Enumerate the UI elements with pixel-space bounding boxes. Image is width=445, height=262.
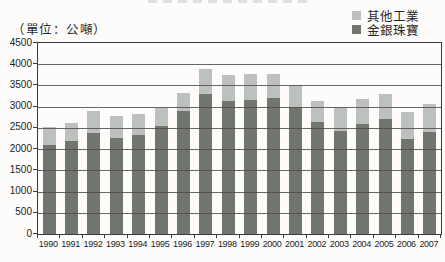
bar-1992-other-industry xyxy=(87,111,100,133)
x-axis-label-1994: 1994 xyxy=(126,239,150,249)
y-axis-tick-0 xyxy=(33,233,37,234)
y-axis-tick-1500 xyxy=(33,169,37,170)
x-axis-tick-0 xyxy=(37,235,38,238)
bar-1996-other-industry xyxy=(177,93,190,111)
y-axis-label-1000: 1000 xyxy=(1,185,32,196)
y-axis-tick-4000 xyxy=(33,63,37,64)
x-axis-tick-6 xyxy=(171,235,172,238)
bar-2006-jewelry xyxy=(401,139,414,235)
x-axis-tick-7 xyxy=(194,235,195,238)
x-axis-tick-18 xyxy=(440,235,441,238)
gridline-2000 xyxy=(38,149,441,150)
bar-1997-other-industry xyxy=(199,69,212,93)
x-axis-label-1993: 1993 xyxy=(103,239,127,249)
bar-1999-jewelry xyxy=(244,100,257,234)
bar-1995-jewelry xyxy=(155,126,168,234)
x-axis-label-2001: 2001 xyxy=(282,239,306,249)
x-axis-label-1996: 1996 xyxy=(171,239,195,249)
x-axis-label-2007: 2007 xyxy=(417,239,441,249)
bar-1990-jewelry xyxy=(43,145,56,234)
gridline-3000 xyxy=(38,107,441,108)
y-axis-tick-2500 xyxy=(33,127,37,128)
y-axis-label-0: 0 xyxy=(1,228,32,239)
bar-1993-jewelry xyxy=(110,138,123,234)
legend: 其他工業 金銀珠寶 xyxy=(352,8,419,36)
x-axis-tick-13 xyxy=(328,235,329,238)
plot-area xyxy=(37,42,442,235)
x-axis-label-2004: 2004 xyxy=(350,239,374,249)
x-axis-label-1990: 1990 xyxy=(36,239,60,249)
bar-1998-other-industry xyxy=(222,75,235,101)
bar-2001-other-industry xyxy=(289,85,302,106)
legend-swatch-other-industry xyxy=(352,11,361,20)
y-axis-label-3000: 3000 xyxy=(1,100,32,111)
bar-1996-jewelry xyxy=(177,111,190,234)
x-axis-tick-5 xyxy=(149,235,150,238)
bar-1991-jewelry xyxy=(65,141,78,234)
x-axis-tick-10 xyxy=(261,235,262,238)
y-axis-tick-2000 xyxy=(33,148,37,149)
y-axis-tick-500 xyxy=(33,212,37,213)
y-axis-label-4500: 4500 xyxy=(1,37,32,48)
bar-2002-jewelry xyxy=(311,122,324,234)
x-axis-tick-15 xyxy=(373,235,374,238)
y-axis-label-3500: 3500 xyxy=(1,79,32,90)
bar-2007-jewelry xyxy=(423,132,436,234)
x-axis-tick-1 xyxy=(59,235,60,238)
bar-1998-jewelry xyxy=(222,101,235,234)
y-axis-label-500: 500 xyxy=(1,206,32,217)
y-axis-label-2500: 2500 xyxy=(1,121,32,132)
x-axis-tick-16 xyxy=(395,235,396,238)
bar-2002-other-industry xyxy=(311,101,324,122)
x-axis-tick-8 xyxy=(216,235,217,238)
gridline-1500 xyxy=(38,170,441,171)
y-axis-label-2000: 2000 xyxy=(1,143,32,154)
x-axis-tick-4 xyxy=(127,235,128,238)
bar-1991-other-industry xyxy=(65,123,78,141)
y-axis-tick-1000 xyxy=(33,191,37,192)
legend-swatch-jewelry xyxy=(352,25,361,34)
bar-1999-other-industry xyxy=(244,74,257,101)
bar-2003-jewelry xyxy=(334,131,347,234)
y-axis-label-4000: 4000 xyxy=(1,58,32,69)
bar-1995-other-industry xyxy=(155,108,168,126)
legend-label-jewelry: 金銀珠寶 xyxy=(367,20,419,39)
gridline-500 xyxy=(38,213,441,214)
bar-1994-other-industry xyxy=(132,114,145,135)
x-axis-label-2006: 2006 xyxy=(394,239,418,249)
bar-2004-other-industry xyxy=(356,99,369,124)
legend-item-jewelry: 金銀珠寶 xyxy=(352,22,419,36)
gridline-1000 xyxy=(38,192,441,193)
x-axis-tick-11 xyxy=(283,235,284,238)
bar-2006-other-industry xyxy=(401,112,414,139)
x-axis-label-1991: 1991 xyxy=(59,239,83,249)
x-axis-label-2003: 2003 xyxy=(327,239,351,249)
x-axis-tick-17 xyxy=(418,235,419,238)
x-axis-tick-12 xyxy=(306,235,307,238)
unit-label: （單位：公噸） xyxy=(12,19,107,38)
cropped-title-remnant xyxy=(148,0,312,3)
bar-2004-jewelry xyxy=(356,124,369,234)
y-axis-tick-4500 xyxy=(33,42,37,43)
x-axis-label-1997: 1997 xyxy=(193,239,217,249)
y-axis-tick-3000 xyxy=(33,106,37,107)
gridline-3500 xyxy=(38,85,441,86)
x-axis-label-1999: 1999 xyxy=(238,239,262,249)
bar-1992-jewelry xyxy=(87,133,100,234)
y-axis-tick-3500 xyxy=(33,84,37,85)
gridline-4000 xyxy=(38,64,441,65)
x-axis-tick-9 xyxy=(239,235,240,238)
x-axis-label-2002: 2002 xyxy=(305,239,329,249)
x-axis-label-2000: 2000 xyxy=(260,239,284,249)
y-axis-label-1500: 1500 xyxy=(1,164,32,175)
x-axis-label-2005: 2005 xyxy=(372,239,396,249)
x-axis-label-1992: 1992 xyxy=(81,239,105,249)
bar-2005-jewelry xyxy=(379,119,392,234)
chart-canvas: （單位：公噸） 其他工業 金銀珠寶 0500100015002000250030… xyxy=(0,0,445,262)
x-axis-tick-2 xyxy=(82,235,83,238)
x-axis-label-1995: 1995 xyxy=(148,239,172,249)
bar-1990-other-industry xyxy=(43,127,56,145)
x-axis-tick-14 xyxy=(350,235,351,238)
gridline-2500 xyxy=(38,128,441,129)
x-axis-tick-3 xyxy=(104,235,105,238)
